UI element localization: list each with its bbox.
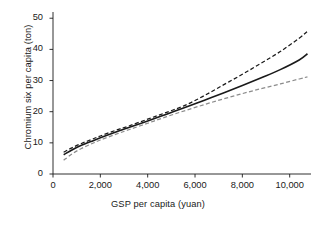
y-tick-label: 10: [17, 137, 43, 147]
x-tick-label: 10,000: [265, 180, 315, 190]
y-tick-label: 40: [17, 43, 43, 53]
y-tick-label: 20: [17, 106, 43, 116]
x-tick-label: 6,000: [170, 180, 220, 190]
x-tick-label: 8,000: [217, 180, 267, 190]
y-tick-label: 30: [17, 75, 43, 85]
y-axis-ticks: [50, 18, 54, 174]
y-tick-label: 50: [17, 12, 43, 22]
data-series-group: [64, 31, 308, 160]
chart-figure: Chromium six per capita (ton) GSP per ca…: [0, 0, 316, 233]
x-tick-label: 4,000: [123, 180, 173, 190]
x-axis-ticks: [53, 174, 290, 178]
x-tick-label: 2,000: [75, 180, 125, 190]
x-tick-label: 0: [28, 180, 78, 190]
chart-canvas: [0, 0, 316, 233]
series-upper-confidence-bound: [64, 31, 308, 152]
y-tick-label: 0: [17, 168, 43, 178]
axes-spines: [53, 12, 311, 174]
series-lower-confidence-bound: [64, 77, 308, 160]
